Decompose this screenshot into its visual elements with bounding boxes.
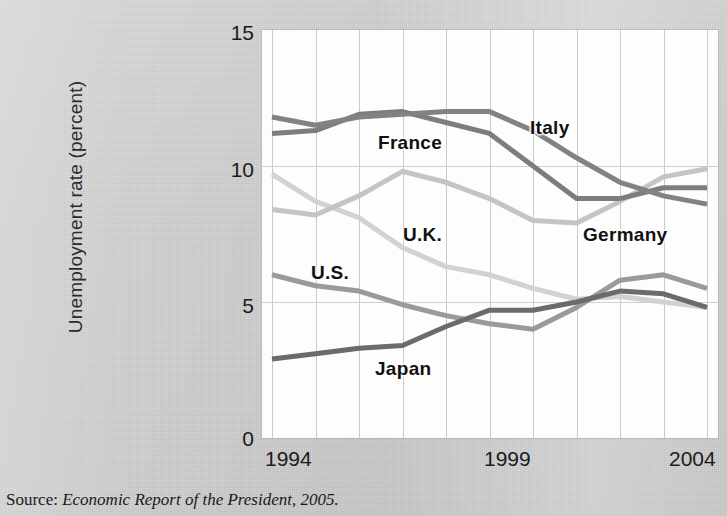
plot-area: France Italy U.K. Germany U.S. Japan xyxy=(262,30,718,438)
series-label-italy: Italy xyxy=(530,117,570,139)
source-prefix: Source: xyxy=(6,490,58,509)
x-tick-1994: 1994 xyxy=(265,448,312,469)
series-label-japan: Japan xyxy=(375,358,431,380)
source-citation: Economic Report of the President, 2005. xyxy=(62,490,339,509)
y-axis-title: Unemployment rate (percent) xyxy=(65,57,87,357)
x-tick-1999: 1999 xyxy=(484,448,531,469)
series-label-france: France xyxy=(378,132,442,154)
y-tick-15: 15 xyxy=(208,22,254,43)
y-axis-tick-labels: 15 10 5 0 xyxy=(202,0,254,516)
series-label-germany: Germany xyxy=(583,224,667,246)
x-tick-2004: 2004 xyxy=(669,448,716,469)
y-tick-0: 0 xyxy=(208,428,254,449)
y-tick-5: 5 xyxy=(208,295,254,316)
y-tick-10: 10 xyxy=(208,159,254,180)
unemployment-rate-chart-figure: Unemployment rate (percent) 15 10 5 0 xyxy=(0,0,727,516)
series-line-france xyxy=(272,112,707,199)
series-label-us: U.S. xyxy=(311,262,349,284)
source-note: Source: Economic Report of the President… xyxy=(6,490,339,510)
series-line-germany xyxy=(272,169,707,223)
series-label-uk: U.K. xyxy=(403,224,442,246)
series-line-italy xyxy=(272,112,707,205)
